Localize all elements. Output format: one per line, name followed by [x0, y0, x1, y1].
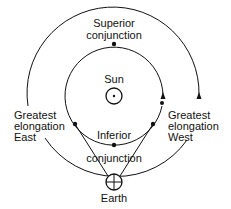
- greatest-elongation-east-label: Greatest elongation East: [14, 110, 65, 143]
- right-orbit-dot: [160, 101, 164, 105]
- inferior-label-line2: conjunction: [84, 153, 144, 164]
- earth-label: Earth: [96, 193, 132, 204]
- superior-label-line1: Superior: [84, 18, 144, 29]
- west-label-line3: West: [168, 132, 219, 143]
- sun-center-dot: [113, 95, 115, 97]
- greatest-elongation-west-label: Greatest elongation West: [168, 110, 219, 143]
- orbital-configuration-diagram: Superior conjunction Sun Inferior conjun…: [0, 0, 231, 209]
- inferior-label-line1: Inferior: [89, 130, 139, 141]
- sun-label: Sun: [99, 74, 129, 85]
- earth-orbit-arrow-icon: [197, 92, 202, 99]
- superior-label-line2: conjunction: [84, 30, 144, 41]
- east-label-line3: East: [14, 132, 65, 143]
- inner-orbit-arrow-icon: [161, 92, 166, 99]
- superior-conjunction-label: Superior conjunction: [84, 18, 144, 41]
- inferior-conjunction-dot: [112, 143, 116, 147]
- superior-conjunction-dot: [112, 42, 116, 46]
